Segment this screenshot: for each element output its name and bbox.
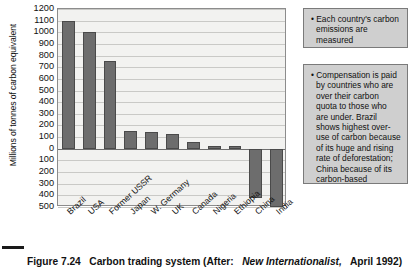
y-tick-label: 400 [39, 97, 54, 106]
bar-brazil [62, 21, 75, 149]
callout-text: • Compensation is paid by countries who … [311, 70, 401, 184]
plot-area [57, 8, 286, 206]
bar-uk [166, 134, 179, 149]
callout-box-emissions-measured: • Each country's carbon emissions are me… [303, 8, 408, 48]
bar-canada [187, 142, 200, 149]
y-tick-label: 200 [39, 167, 54, 176]
bar-japan [124, 131, 137, 148]
y-tick-label: 1000 [34, 27, 54, 36]
bar-former-ussr [104, 61, 117, 148]
caption-text: Carbon trading system (After: [89, 256, 233, 267]
caption-rule [2, 246, 24, 249]
gridline [58, 21, 285, 22]
figure-caption: Figure 7.24 Carbon trading system (After… [27, 256, 407, 267]
bar-usa [83, 32, 96, 148]
y-tick-label: 900 [39, 38, 54, 47]
bar-w-germany [145, 132, 158, 149]
y-tick-label: 500 [39, 202, 54, 211]
x-axis-tick-labels: BrazilUSAFormer USSRJapanW. GermanyUKCan… [57, 207, 297, 253]
y-tick-label: 100 [39, 155, 54, 164]
bar-chart: Millions of tonnes of carbon equivalent … [0, 2, 290, 246]
caption-prefix: Figure 7.24 [27, 256, 81, 267]
y-tick-label: 1100 [34, 15, 54, 24]
y-tick-label: 500 [39, 85, 54, 94]
y-tick-label: 300 [39, 108, 54, 117]
y-tick-label: 200 [39, 120, 54, 129]
y-tick-label: 400 [39, 190, 54, 199]
gridline [58, 9, 285, 10]
y-tick-label: 600 [39, 73, 54, 82]
y-tick-label: 300 [39, 178, 54, 187]
y-tick-label: 100 [39, 132, 54, 141]
callout-box-compensation: • Compensation is paid by countries who … [303, 64, 408, 184]
caption-source: New Internationalist, [242, 256, 342, 267]
y-tick-label: 0 [49, 143, 54, 152]
callout-text: • Each country's carbon emissions are me… [311, 14, 401, 45]
y-axis-tick-labels: 1200110010009008007006005004003002001000… [14, 8, 54, 206]
y-tick-label: 800 [39, 50, 54, 59]
caption-date: April 1992) [350, 256, 402, 267]
y-tick-label: 1200 [34, 4, 54, 13]
bar-ethiopia [229, 146, 242, 149]
bar-nigeria [208, 146, 221, 149]
y-tick-label: 700 [39, 62, 54, 71]
